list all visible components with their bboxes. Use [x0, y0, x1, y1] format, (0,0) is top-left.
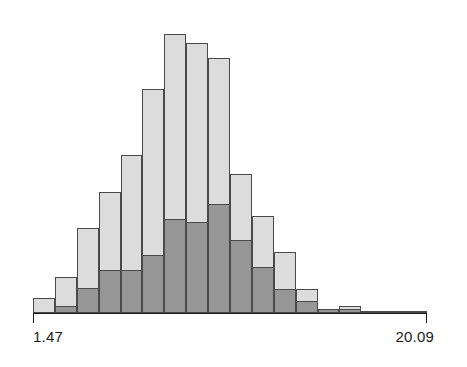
bar-segment-dark — [319, 310, 339, 312]
histogram-bar — [142, 89, 164, 313]
histogram-bar — [339, 306, 361, 313]
bar-segment-light — [143, 90, 163, 255]
bar-segment-light — [297, 290, 317, 301]
histogram-bar — [186, 43, 208, 313]
bar-segment-dark — [275, 289, 295, 312]
histogram-bar — [33, 298, 55, 313]
bar-segment-dark — [143, 255, 163, 312]
histogram-bar — [230, 174, 252, 313]
bar-segment-dark — [100, 270, 120, 312]
bar-segment-light — [209, 59, 229, 203]
bar-segment-light — [34, 299, 54, 312]
bar-segment-light — [78, 229, 98, 288]
histogram-bar — [99, 192, 121, 313]
bar-segment-light — [56, 278, 76, 307]
x-axis-min-label: 1.47 — [33, 328, 63, 345]
plot-area — [33, 10, 427, 313]
histogram-bar — [296, 289, 318, 313]
bar-segment-dark — [297, 301, 317, 312]
x-axis-bracket — [33, 313, 427, 323]
bar-segment-light — [231, 175, 251, 241]
bar-segment-dark — [187, 222, 207, 312]
bar-segment-dark — [340, 309, 360, 312]
bar-segment-dark — [253, 267, 273, 312]
bar-segment-light — [100, 193, 120, 270]
histogram-bar — [274, 252, 296, 313]
histogram-chart: 1.47 20.09 — [0, 0, 467, 367]
bar-segment-light — [253, 217, 273, 267]
bar-segment-dark — [78, 288, 98, 312]
histogram-bar — [208, 58, 230, 313]
bar-segment-dark — [231, 240, 251, 312]
bar-segment-light — [275, 253, 295, 288]
bar-segment-dark — [209, 204, 229, 312]
histogram-bar — [121, 155, 143, 313]
histogram-bar — [164, 34, 186, 313]
bar-segment-light — [165, 35, 185, 218]
bar-segment-dark — [165, 219, 185, 312]
x-axis-max-label: 20.09 — [395, 328, 434, 345]
histogram-bar — [77, 228, 99, 313]
bar-segment-light — [122, 156, 142, 270]
bar-segment-dark — [122, 270, 142, 312]
histogram-bar — [55, 277, 77, 313]
histogram-bar — [252, 216, 274, 313]
bar-segment-dark — [56, 306, 76, 312]
bar-segment-light — [187, 44, 207, 221]
